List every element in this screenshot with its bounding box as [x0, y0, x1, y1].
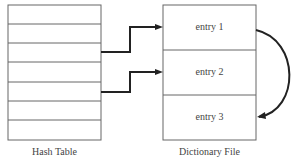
arrowhead-icon	[155, 24, 163, 30]
hash-table	[8, 5, 101, 140]
entry-2-label: entry 2	[163, 66, 256, 77]
diagram-canvas	[0, 0, 302, 159]
entry-1-label: entry 1	[163, 21, 256, 32]
arrowhead-icon	[155, 69, 163, 75]
hash-table-label: Hash Table	[8, 146, 101, 157]
entry-3-label: entry 3	[163, 111, 256, 122]
arrowhead-icon	[257, 112, 266, 119]
dictionary-file-label: Dictionary File	[163, 146, 256, 157]
